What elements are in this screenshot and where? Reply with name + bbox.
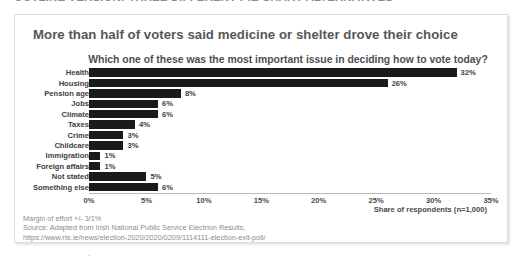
clipped-heading-text: OUTLINE VERSION: THREE DIFFERENT PIE CHA… bbox=[14, 0, 393, 3]
bar-category-label: Something else bbox=[0, 183, 89, 192]
bar-row: Pension age8% bbox=[15, 89, 509, 98]
bar-value-label: 1% bbox=[104, 151, 115, 160]
bar-row: Immigration1% bbox=[15, 151, 509, 160]
bar-value-label: 8% bbox=[185, 89, 196, 98]
bar-fill bbox=[89, 89, 181, 97]
bar-fill bbox=[89, 172, 146, 180]
x-axis-tick-label: 0% bbox=[84, 196, 95, 205]
bar-value-label: 6% bbox=[162, 110, 173, 119]
chart-question-subtitle: Which one of these was the most importan… bbox=[15, 54, 509, 65]
bar-track: 4% bbox=[89, 120, 501, 129]
chart-card: More than half of voters said medicine o… bbox=[14, 14, 508, 243]
bar-value-label: 3% bbox=[127, 141, 138, 150]
bar-row: Childcare3% bbox=[15, 141, 509, 150]
bar-value-label: 26% bbox=[392, 79, 407, 88]
stray-mark: . bbox=[88, 249, 90, 257]
bar-fill bbox=[89, 79, 388, 87]
bar-category-label: Pension age bbox=[0, 89, 89, 98]
x-axis-tick-label: 5% bbox=[141, 196, 152, 205]
bar-category-label: Health bbox=[0, 68, 89, 77]
bar-fill bbox=[89, 131, 123, 139]
bar-category-label: Childcare bbox=[0, 141, 89, 150]
bar-track: 6% bbox=[89, 182, 501, 191]
bar-row: Health32% bbox=[15, 68, 509, 77]
x-axis-tick-label: 25% bbox=[369, 196, 384, 205]
bar-fill bbox=[89, 162, 100, 170]
bar-fill bbox=[89, 152, 100, 160]
bar-track: 3% bbox=[89, 141, 501, 150]
bar-category-label: Jobs bbox=[0, 99, 89, 108]
x-axis-tick-label: 20% bbox=[311, 196, 326, 205]
source-url[interactable]: https://www.rte.ie/news/election-2020/20… bbox=[23, 233, 503, 242]
footnote-line: Source: Adapted from Irish National Publ… bbox=[23, 223, 503, 232]
x-axis-tick-label: 10% bbox=[196, 196, 211, 205]
bar-value-label: 6% bbox=[162, 99, 173, 108]
bar-fill bbox=[89, 68, 457, 76]
bar-fill bbox=[89, 110, 158, 118]
bar-track: 5% bbox=[89, 172, 501, 181]
bar-value-label: 3% bbox=[127, 131, 138, 140]
bar-chart-plot-area: Health32%Housing26%Pension age8%Jobs6%Cl… bbox=[15, 68, 509, 193]
bar-track: 3% bbox=[89, 130, 501, 139]
x-axis-line bbox=[89, 193, 491, 194]
bar-value-label: 5% bbox=[150, 172, 161, 181]
bar-category-label: Immigration bbox=[0, 151, 89, 160]
bar-track: 32% bbox=[89, 68, 501, 77]
x-axis-caption: Share of respondents (n=1,000) bbox=[15, 205, 509, 214]
bar-value-label: 6% bbox=[162, 183, 173, 192]
bar-track: 1% bbox=[89, 162, 501, 171]
bar-row: Something else6% bbox=[15, 182, 509, 191]
x-axis-tick-label: 35% bbox=[483, 196, 498, 205]
bar-track: 1% bbox=[89, 151, 501, 160]
bar-fill bbox=[89, 141, 123, 149]
bar-track: 6% bbox=[89, 110, 501, 119]
bar-category-label: Climate bbox=[0, 110, 89, 119]
page-title: More than half of voters said medicine o… bbox=[33, 27, 458, 42]
bar-row: Foreign affairs1% bbox=[15, 162, 509, 171]
bar-track: 6% bbox=[89, 99, 501, 108]
bar-fill bbox=[89, 100, 158, 108]
bar-category-label: Crime bbox=[0, 131, 89, 140]
x-axis-tick-label: 15% bbox=[254, 196, 269, 205]
bar-value-label: 1% bbox=[104, 162, 115, 171]
bar-fill bbox=[89, 120, 135, 128]
bar-row: Not stated5% bbox=[15, 172, 509, 181]
bar-row: Jobs6% bbox=[15, 99, 509, 108]
bar-value-label: 32% bbox=[461, 68, 476, 77]
bar-track: 8% bbox=[89, 89, 501, 98]
bar-category-label: Housing bbox=[0, 79, 89, 88]
bar-fill bbox=[89, 183, 158, 191]
bar-value-label: 4% bbox=[139, 120, 150, 129]
footnote-line: Margin of effort +/- 3/1% bbox=[23, 214, 503, 223]
x-axis-tick-label: 30% bbox=[426, 196, 441, 205]
bar-row: Housing26% bbox=[15, 78, 509, 87]
bar-category-label: Foreign affairs bbox=[0, 162, 89, 171]
bar-row: Taxes4% bbox=[15, 120, 509, 129]
bar-track: 26% bbox=[89, 78, 501, 87]
bar-category-label: Taxes bbox=[0, 120, 89, 129]
bar-row: Climate6% bbox=[15, 110, 509, 119]
footnotes: Margin of effort +/- 3/1%Source: Adapted… bbox=[23, 214, 503, 242]
bar-category-label: Not stated bbox=[0, 172, 89, 181]
clipped-heading-strip: OUTLINE VERSION: THREE DIFFERENT PIE CHA… bbox=[0, 0, 520, 11]
bar-row: Crime3% bbox=[15, 130, 509, 139]
